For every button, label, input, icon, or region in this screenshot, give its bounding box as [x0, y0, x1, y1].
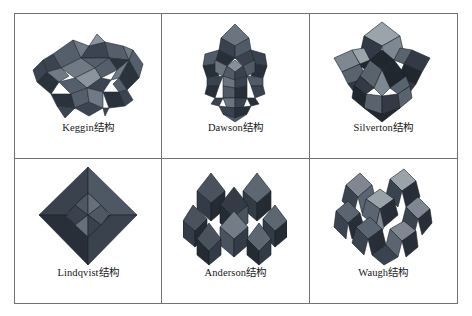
figure-root: Keggin结构	[0, 0, 472, 316]
grid-cell-keggin: Keggin结构	[15, 14, 162, 159]
grid-cell-silverton: Silverton结构	[310, 14, 457, 159]
cell-caption-dawson: Dawson结构	[162, 121, 308, 134]
polyhedron-model-lindqvist	[15, 163, 161, 271]
polyhedron-model-silverton	[310, 18, 457, 126]
cell-caption-silverton: Silverton结构	[310, 121, 457, 134]
cell-caption-keggin: Keggin结构	[15, 121, 161, 134]
cell-caption-anderson: Anderson结构	[162, 266, 308, 279]
polyhedron-model-dawson	[162, 18, 308, 126]
structure-grid: Keggin结构	[14, 13, 458, 304]
polyhedron-model-keggin	[15, 18, 161, 126]
polyhedron-model-waugh	[310, 163, 457, 271]
cell-caption-waugh: Waugh结构	[310, 266, 457, 279]
polyhedron-model-anderson	[162, 163, 308, 271]
grid-cell-lindqvist: Lindqvist结构	[15, 159, 162, 304]
grid-cell-dawson: Dawson结构	[162, 14, 309, 159]
grid-cell-waugh: Waugh结构	[310, 159, 457, 304]
cell-caption-lindqvist: Lindqvist结构	[15, 266, 161, 279]
grid-cell-anderson: Anderson结构	[162, 159, 309, 304]
